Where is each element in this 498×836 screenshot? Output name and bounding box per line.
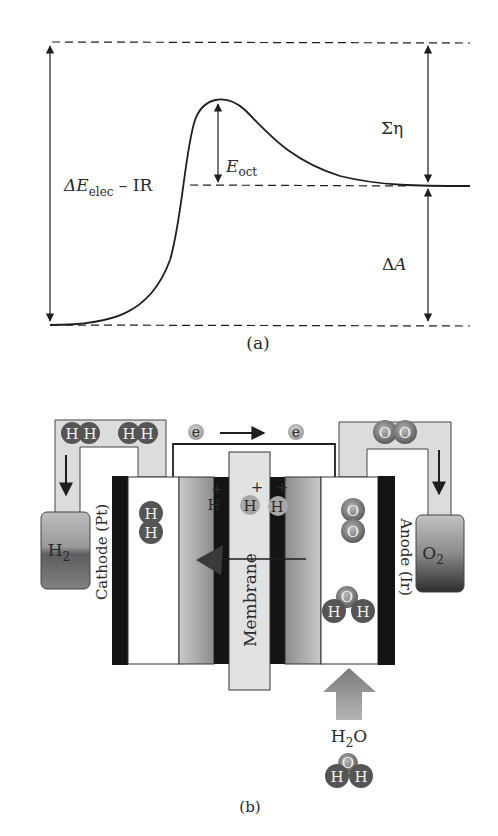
panel-a-caption: (a)	[246, 333, 269, 353]
bottom-reference-dashed-line	[52, 325, 470, 326]
middle-reference-dashed-line	[190, 185, 410, 186]
svg-text:O: O	[379, 424, 391, 442]
electron-right-label: e	[292, 424, 300, 440]
figure-canvas: ΔEelec – IR Eoct Ση ΔA (a) Membrane	[0, 0, 498, 836]
anode-label: Anode (Ir)	[397, 517, 415, 596]
cathode-electrode	[112, 476, 128, 665]
svg-text:H: H	[144, 505, 157, 523]
anode-diffusion-layer	[285, 477, 321, 664]
delta-a-label: ΔA	[382, 254, 407, 274]
cathode-label: Cathode (Pt)	[93, 504, 111, 600]
svg-text:H: H	[207, 496, 220, 514]
panel-b-electrolyzer: Membrane e e + H + H + H H H	[41, 420, 464, 816]
svg-text:H: H	[330, 768, 343, 786]
svg-text:O: O	[341, 588, 353, 606]
svg-text:O: O	[347, 523, 359, 541]
svg-text:O: O	[347, 502, 359, 520]
panel-a-energy-diagram: ΔEelec – IR Eoct Ση ΔA (a)	[50, 42, 470, 353]
top-reference-dashed-line	[52, 42, 470, 43]
svg-text:O: O	[342, 754, 354, 772]
anode-electrode	[378, 476, 395, 665]
svg-text:H: H	[243, 497, 256, 515]
svg-text:H: H	[122, 425, 135, 443]
svg-text:H: H	[83, 425, 96, 443]
h2o-molecule-input: O H H	[325, 753, 373, 788]
water-input-arrow	[323, 668, 376, 720]
svg-text:H: H	[354, 768, 367, 786]
svg-text:H: H	[140, 425, 153, 443]
svg-text:+: +	[251, 478, 264, 496]
svg-text:H: H	[327, 603, 340, 621]
energy-curve	[50, 99, 470, 325]
svg-text:H: H	[144, 524, 157, 542]
delta-e-elec-ir-label: ΔEelec – IR	[63, 175, 153, 199]
membrane-label: Membrane	[240, 553, 260, 647]
e-oct-label: Eoct	[225, 156, 257, 179]
sigma-eta-label: Ση	[381, 118, 403, 138]
electron-left-label: e	[192, 424, 200, 440]
svg-text:H: H	[356, 603, 369, 621]
svg-text:O: O	[399, 424, 411, 442]
svg-text:+: +	[276, 478, 289, 496]
svg-text:H: H	[65, 425, 78, 443]
svg-text:H: H	[270, 498, 283, 516]
panel-b-caption: (b)	[239, 798, 260, 816]
water-input-label: H2O	[331, 726, 367, 750]
